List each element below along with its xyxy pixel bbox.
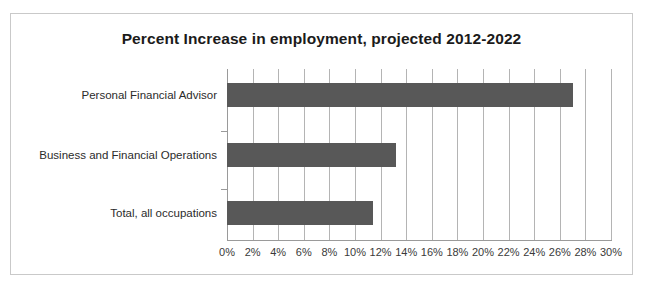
x-tick-label: 30%	[600, 246, 622, 258]
x-tick-label: 0%	[219, 246, 235, 258]
gridline-28%	[585, 69, 586, 241]
x-axis-tick-labels: 0%2%4%6%8%10%12%14%16%18%20%22%24%26%28%…	[227, 246, 612, 264]
y-axis-tick	[221, 131, 227, 132]
category-label: Total, all occupations	[2, 207, 217, 219]
category-axis-line	[227, 240, 612, 241]
x-tick-label: 22%	[498, 246, 520, 258]
x-tick-label: 18%	[446, 246, 468, 258]
x-tick-label: 2%	[245, 246, 261, 258]
bar	[227, 201, 373, 225]
x-tick-label: 24%	[523, 246, 545, 258]
category-label: Personal Financial Advisor	[2, 89, 217, 101]
x-tick-label: 20%	[472, 246, 494, 258]
x-tick-label: 10%	[344, 246, 366, 258]
bar	[227, 83, 573, 107]
bar	[227, 143, 396, 167]
chart-frame: Percent Increase in employment, projecte…	[10, 13, 633, 275]
x-tick-label: 26%	[549, 246, 571, 258]
x-tick-label: 6%	[296, 246, 312, 258]
x-tick-label: 14%	[395, 246, 417, 258]
y-axis-tick	[221, 189, 227, 190]
x-tick-label: 28%	[574, 246, 596, 258]
x-tick-label: 8%	[321, 246, 337, 258]
gridline-30%	[611, 69, 612, 241]
x-tick-label: 4%	[270, 246, 286, 258]
x-tick-label: 12%	[370, 246, 392, 258]
chart-title: Percent Increase in employment, projecte…	[11, 30, 632, 48]
x-tick-label: 16%	[421, 246, 443, 258]
category-label: Business and Financial Operations	[2, 149, 217, 161]
